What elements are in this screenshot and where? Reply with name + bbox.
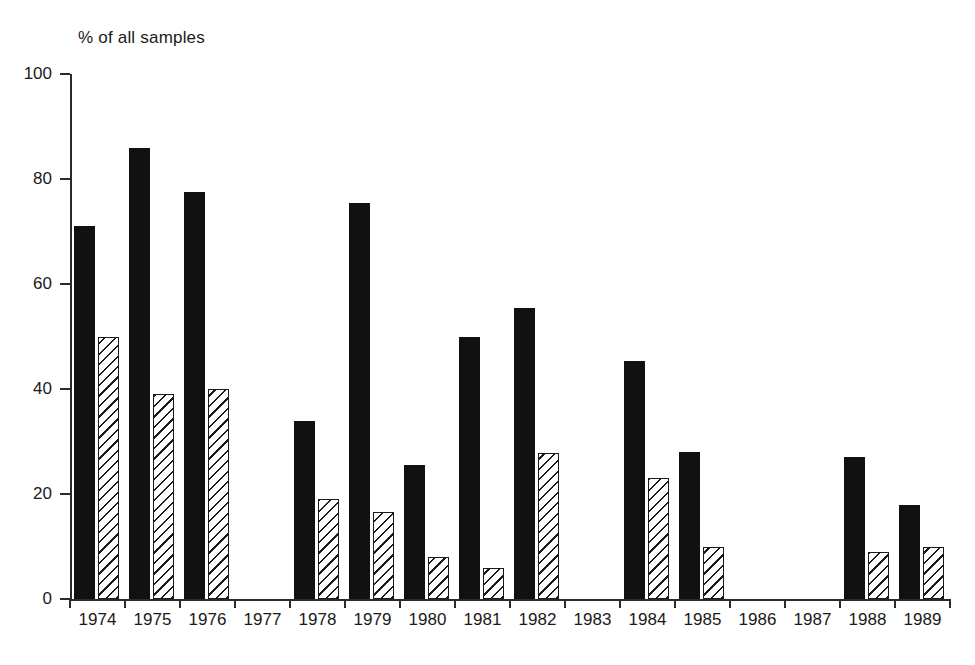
x-axis-tick — [399, 599, 401, 608]
y-axis-tick-label: 0 — [0, 590, 52, 607]
x-axis-tick-label: 1986 — [730, 611, 785, 628]
plot-area — [70, 74, 950, 599]
bar-1989-hatched — [923, 547, 944, 600]
bar-1979-hatched — [373, 512, 394, 599]
x-axis-tick — [949, 599, 951, 608]
bar-1978-hatched — [318, 499, 339, 599]
bar-1974-solid — [74, 226, 95, 599]
bar-1982-solid — [514, 308, 535, 599]
x-axis-tick — [234, 599, 236, 608]
y-axis-tick-label: 80 — [0, 170, 52, 187]
y-axis-title: % of all samples — [78, 28, 205, 48]
y-axis-tick — [60, 73, 70, 75]
bar-1975-solid — [129, 148, 150, 600]
x-axis-tick — [69, 599, 71, 608]
bar-chart: % of all samples 020406080100 1974197519… — [0, 0, 975, 665]
x-axis-tick — [124, 599, 126, 608]
x-axis-tick-label: 1979 — [345, 611, 400, 628]
bar-1985-solid — [679, 452, 700, 599]
x-axis-tick — [344, 599, 346, 608]
bar-1976-solid — [184, 192, 205, 599]
bar-1989-solid — [899, 505, 920, 600]
x-axis-tick — [894, 599, 896, 608]
bar-1988-hatched — [868, 552, 889, 599]
x-axis-tick — [289, 599, 291, 608]
x-axis-tick-label: 1980 — [400, 611, 455, 628]
x-axis-tick-label: 1987 — [785, 611, 840, 628]
x-axis-tick — [784, 599, 786, 608]
x-axis-tick — [454, 599, 456, 608]
x-axis-tick — [674, 599, 676, 608]
y-axis-tick — [60, 283, 70, 285]
y-axis-tick — [60, 388, 70, 390]
y-axis-tick-label: 100 — [0, 65, 52, 82]
x-axis-tick — [509, 599, 511, 608]
bar-1984-solid — [624, 361, 645, 599]
bar-1980-solid — [404, 465, 425, 599]
x-axis-tick — [729, 599, 731, 608]
x-axis-tick-label: 1985 — [675, 611, 730, 628]
x-axis-tick-label: 1982 — [510, 611, 565, 628]
x-axis-tick-label: 1984 — [620, 611, 675, 628]
x-axis-tick-label: 1975 — [125, 611, 180, 628]
y-axis-tick-label: 60 — [0, 275, 52, 292]
bar-1984-hatched — [648, 478, 669, 599]
x-axis-tick — [179, 599, 181, 608]
x-axis-tick — [839, 599, 841, 608]
bar-1974-hatched — [98, 337, 119, 600]
x-axis-tick-label: 1978 — [290, 611, 345, 628]
bar-1978-solid — [294, 421, 315, 600]
bar-1981-solid — [459, 337, 480, 600]
x-axis-tick-label: 1983 — [565, 611, 620, 628]
x-axis-tick-label: 1974 — [70, 611, 125, 628]
bar-1981-hatched — [483, 568, 504, 600]
x-axis-tick-label: 1976 — [180, 611, 235, 628]
bar-1979-solid — [349, 203, 370, 599]
bar-1985-hatched — [703, 547, 724, 600]
bar-1975-hatched — [153, 394, 174, 599]
y-axis-tick — [60, 178, 70, 180]
x-axis-tick-label: 1977 — [235, 611, 290, 628]
x-axis-tick — [619, 599, 621, 608]
y-axis-tick — [60, 493, 70, 495]
x-axis-tick-label: 1981 — [455, 611, 510, 628]
bar-1980-hatched — [428, 557, 449, 599]
bar-1976-hatched — [208, 389, 229, 599]
y-axis-tick-label: 20 — [0, 485, 52, 502]
x-axis-tick-label: 1989 — [895, 611, 950, 628]
y-axis-tick-label: 40 — [0, 380, 52, 397]
bar-1988-solid — [844, 457, 865, 599]
x-axis-tick-label: 1988 — [840, 611, 895, 628]
x-axis-tick — [564, 599, 566, 608]
bar-1982-hatched — [538, 453, 559, 599]
